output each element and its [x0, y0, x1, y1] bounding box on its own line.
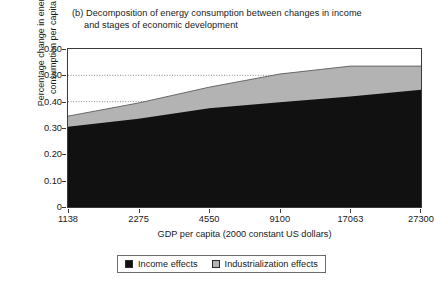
x-axis-tick-label: 4550 [179, 214, 239, 224]
y-axis-tick-mark [62, 207, 66, 208]
y-axis-tick-mark [62, 181, 66, 182]
stacked-area-plot [68, 49, 421, 207]
x-axis-tick-label: 9100 [250, 214, 310, 224]
x-axis-tick-label: 27300 [391, 214, 435, 224]
legend-item: Income effects [125, 259, 198, 269]
x-axis-tick-mark [350, 209, 351, 213]
x-axis-tick-label: 17063 [320, 214, 380, 224]
y-axis-tick-marks [0, 48, 70, 208]
chart-title: (b) Decomposition of energy consumption … [72, 8, 422, 31]
x-axis-tick-mark [68, 209, 69, 213]
x-axis-title: GDP per capita (2000 constant US dollars… [67, 229, 422, 239]
legend-swatch-icon [212, 260, 220, 268]
legend-item-label: Industrialization effects [225, 259, 318, 269]
legend-item: Industrialization effects [212, 259, 318, 269]
x-axis-tick-mark [420, 209, 421, 213]
y-axis-tick-mark [62, 128, 66, 129]
y-axis-tick-mark [62, 102, 66, 103]
y-axis-tick-mark [62, 75, 66, 76]
x-axis-tick-label: 2275 [109, 214, 169, 224]
chart-title-line-2: and stages of economic development [72, 20, 422, 32]
legend-swatch-icon [125, 260, 133, 268]
chart-title-line-1: (b) Decomposition of energy consumption … [72, 8, 362, 18]
x-axis-tick-mark [139, 209, 140, 213]
x-axis-tick-mark [209, 209, 210, 213]
y-axis-tick-mark [62, 49, 66, 50]
plot-area [67, 48, 422, 208]
y-axis-tick-mark [62, 154, 66, 155]
x-axis-tick-labels: 11382275455091001706327300 [67, 209, 422, 229]
x-axis-tick-label: 1138 [38, 214, 98, 224]
x-axis-tick-mark [280, 209, 281, 213]
chart-legend: Income effectsIndustrialization effects [117, 255, 326, 273]
legend-item-label: Income effects [138, 259, 198, 269]
